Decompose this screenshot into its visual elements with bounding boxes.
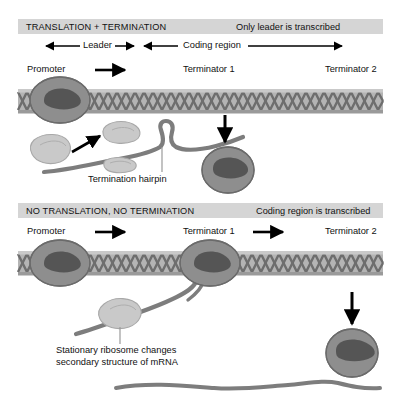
site-label-promoter-2: Promoter [27, 226, 65, 236]
ribosome-small-subunit-free [104, 157, 136, 172]
panel-translation-termination: TRANSLATION + TERMINATION Only leader is… [0, 0, 401, 200]
panel-1-header-note: Only leader is transcribed [236, 22, 340, 32]
panel-2-header-note: Coding region is transcribed [256, 206, 370, 216]
site-label-terminator-1-2: Terminator 1 [183, 226, 235, 236]
annotation-stationary-ribosome-line-1: Stationary ribosome changes [56, 345, 176, 357]
site-label-terminator-2: Terminator 2 [325, 64, 377, 74]
ribosome-large-subunit-free [103, 122, 140, 144]
site-label-promoter: Promoter [27, 64, 65, 74]
annotation-termination-hairpin: Termination hairpin [88, 174, 167, 186]
site-label-terminator-1: Terminator 1 [183, 64, 235, 74]
panel-1-header-title: TRANSLATION + TERMINATION [26, 22, 166, 32]
region-label-leader: Leader [80, 40, 115, 50]
annotation-stationary-ribosome-line-2: secondary structure of mRNA [56, 357, 178, 369]
panel-1-header-bar: TRANSLATION + TERMINATION Only leader is… [18, 19, 383, 34]
ribosome-large-subunit-attached [30, 134, 70, 163]
site-label-terminator-2-2: Terminator 2 [325, 226, 377, 236]
region-label-coding-region: Coding region [180, 40, 244, 50]
panel-2-header-title: NO TRANSLATION, NO TERMINATION [26, 206, 194, 216]
panel-2-header-bar: NO TRANSLATION, NO TERMINATION Coding re… [18, 203, 383, 218]
panel-no-translation-no-termination: NO TRANSLATION, NO TERMINATION Coding re… [0, 198, 401, 416]
